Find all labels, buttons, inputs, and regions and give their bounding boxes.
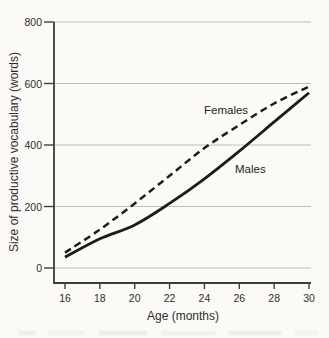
x-tick-label-26: 26 <box>227 292 251 304</box>
x-tick-label-18: 18 <box>88 292 112 304</box>
vocabulary-growth-figure: Size of productive vocabulary (words) Ag… <box>0 0 329 338</box>
chart-svg <box>0 0 329 338</box>
x-tick-label-28: 28 <box>262 292 286 304</box>
x-tick-label-16: 16 <box>53 292 77 304</box>
y-tick-label-200: 200 <box>0 201 42 213</box>
males-series-label: Males <box>235 163 266 176</box>
x-tick-label-20: 20 <box>123 292 147 304</box>
females-series-label: Females <box>204 104 248 117</box>
y-tick-label-0: 0 <box>0 262 42 274</box>
tick-marks <box>44 22 309 289</box>
y-tick-label-800: 800 <box>0 16 42 28</box>
x-axis-title: Age (months) <box>147 309 219 323</box>
x-tick-label-30: 30 <box>297 292 321 304</box>
y-tick-label-400: 400 <box>0 139 42 151</box>
females-curve <box>65 87 309 253</box>
males-curve <box>65 93 309 258</box>
gridlines <box>54 22 311 268</box>
x-tick-label-24: 24 <box>192 292 216 304</box>
y-tick-label-600: 600 <box>0 78 42 90</box>
scan-artifact <box>18 331 318 335</box>
x-tick-label-22: 22 <box>158 292 182 304</box>
